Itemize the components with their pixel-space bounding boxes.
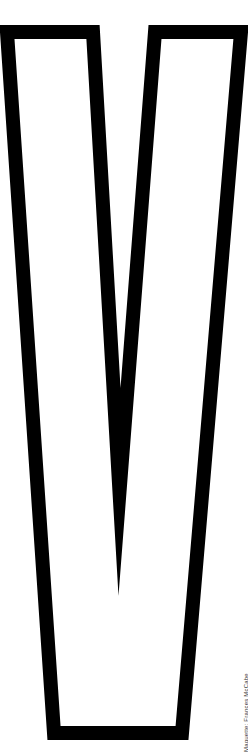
letter-v-shape <box>7 32 241 733</box>
credit-caption: Maquette: Frances McCabe <box>243 673 248 752</box>
letter-v-outline <box>0 0 248 753</box>
